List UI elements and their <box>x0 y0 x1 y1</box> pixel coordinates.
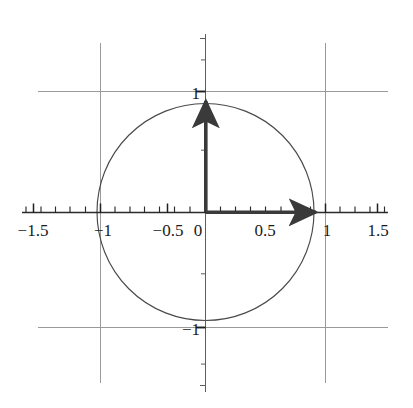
unit-circle-figure: −1.5 −1 −0.5 0 0.5 1 1.5 1 −1 <box>0 0 413 408</box>
x-tick-label--1: −1 <box>94 222 112 239</box>
gridlines-horizontal <box>38 92 388 328</box>
x-tick-label-1: 1 <box>323 222 332 239</box>
x-tick-label--0.5: −0.5 <box>153 222 184 239</box>
x-tick-label-0: 0 <box>194 222 203 239</box>
plot-canvas <box>0 0 413 408</box>
x-tick-label-0.5: 0.5 <box>254 222 275 239</box>
x-tick-label-1.5: 1.5 <box>367 222 388 239</box>
x-tick-label--1.5: −1.5 <box>18 222 49 239</box>
y-tick-label-1: 1 <box>192 85 201 102</box>
y-tick-label--1: −1 <box>182 321 200 338</box>
